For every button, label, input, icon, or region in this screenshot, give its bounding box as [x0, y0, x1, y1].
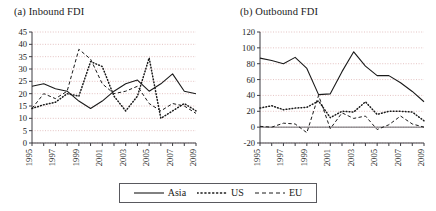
x-tick-label: 1999 [299, 149, 309, 166]
y-tick-label: 10 [18, 113, 27, 123]
y-tick-label: 45 [18, 27, 27, 37]
legend-entry-eu: EU [255, 187, 302, 199]
y-tick-label: 40 [246, 90, 255, 100]
y-tick-label: 0 [251, 122, 255, 132]
y-tick-label: 20 [18, 89, 27, 99]
y-tick-label: 30 [18, 64, 27, 74]
series-line-eu [32, 49, 196, 113]
x-tick-label: 2007 [393, 148, 403, 166]
x-tick-label: 2001 [322, 149, 332, 166]
x-tick-label: 2007 [165, 148, 175, 166]
series-line-us [32, 58, 196, 118]
solid-line-icon [134, 189, 164, 197]
y-tick-label: 35 [18, 52, 27, 62]
series-line-asia [32, 74, 196, 109]
x-tick-label: 1999 [71, 149, 81, 166]
x-tick-label: 2003 [346, 149, 356, 166]
x-tick-label: 2001 [94, 149, 104, 166]
y-tick-label: 80 [246, 59, 255, 69]
legend-label-eu: EU [289, 187, 302, 199]
x-tick-label: 1995 [24, 149, 34, 166]
y-tick-label: 40 [18, 39, 27, 49]
chart-panel-outbound-fdi: (b) Outbound FDI -2002040608010012019951… [218, 0, 436, 180]
chart-panel-inbound-fdi: (a) Inbound FDI 051015202530354045199519… [0, 0, 218, 180]
y-tick-label: 0 [23, 138, 27, 148]
x-tick-label: 1997 [47, 148, 57, 166]
x-tick-label: 1997 [275, 148, 285, 166]
y-tick-label: 120 [242, 27, 255, 37]
y-tick-label: 100 [242, 43, 255, 53]
y-tick-label: 60 [246, 75, 255, 85]
y-tick-label: 5 [23, 126, 27, 136]
x-tick-label: 2003 [118, 149, 128, 166]
x-tick-label: 2005 [141, 149, 151, 166]
dotted-line-icon [197, 189, 227, 197]
x-tick-label: 2009 [416, 149, 426, 166]
y-tick-label: -20 [244, 138, 255, 148]
figure-container: (a) Inbound FDI 051015202530354045199519… [0, 0, 436, 211]
y-tick-label: 15 [18, 101, 27, 111]
y-tick-label: 20 [246, 106, 255, 116]
dashed-line-icon [255, 189, 285, 197]
x-tick-label: 1995 [252, 149, 262, 166]
series-line-asia [260, 52, 424, 102]
legend-label-us: US [231, 187, 244, 199]
x-tick-label: 2009 [188, 149, 198, 166]
legend-entry-us: US [197, 187, 244, 199]
chart-legend: Asia US EU [119, 183, 317, 203]
y-tick-label: 25 [18, 76, 27, 86]
legend-label-asia: Asia [168, 187, 186, 199]
plot-area-outbound-fdi: -200204060801001201995199719992001200320… [218, 0, 436, 180]
x-tick-label: 2005 [369, 149, 379, 166]
series-line-us [260, 101, 424, 121]
plot-area-inbound-fdi: 0510152025303540451995199719992001200320… [0, 0, 218, 180]
legend-entry-asia: Asia [134, 187, 186, 199]
